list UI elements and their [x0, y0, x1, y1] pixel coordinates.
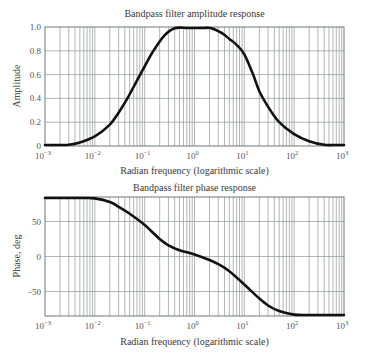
chart-title: Bandpass filter phase response [133, 182, 257, 193]
y-tick-label: −50 [27, 287, 42, 297]
x-tick-label: 10−2 [85, 149, 101, 161]
amplitude-response-chart: Bandpass filter amplitude response 00.20… [11, 8, 348, 177]
y-tick-labels: −50050 [27, 217, 42, 297]
gridlines [45, 197, 344, 316]
phase-response-chart: Bandpass filter phase response −50050 10… [11, 182, 348, 348]
x-tick-label: 10−3 [35, 319, 51, 331]
x-tick-labels: 10−310−210−1100101102103 [35, 149, 348, 161]
y-tick-label: 0.4 [30, 93, 42, 103]
x-tick-label: 100 [186, 319, 198, 331]
x-axis-label: Radian frequency (logarithmic scale) [120, 336, 269, 348]
x-tick-label: 101 [236, 149, 248, 161]
y-axis-label: Amplitude [11, 64, 22, 107]
x-tick-label: 100 [186, 149, 198, 161]
x-tick-label: 103 [336, 149, 348, 161]
y-tick-label: 0.8 [30, 46, 42, 56]
gridlines [45, 27, 344, 146]
y-tick-label: 50 [32, 217, 42, 227]
y-tick-labels: 00.20.40.60.81.0 [30, 22, 42, 151]
y-axis-label: Phase, deg [11, 235, 22, 278]
bandpass-filter-bode-plots: Bandpass filter amplitude response 00.20… [0, 0, 365, 358]
x-tick-labels: 10−310−210−1100101102103 [35, 319, 348, 331]
y-tick-label: 0.2 [30, 117, 41, 127]
figure: Bandpass filter amplitude response 00.20… [0, 0, 365, 358]
y-tick-label: 0 [37, 141, 42, 151]
x-axis-label: Radian frequency (logarithmic scale) [120, 165, 269, 177]
x-tick-label: 10−1 [135, 149, 151, 161]
x-tick-label: 101 [236, 319, 248, 331]
chart-title: Bandpass filter amplitude response [124, 8, 265, 19]
x-tick-label: 102 [286, 319, 298, 331]
y-tick-label: 0 [37, 252, 42, 262]
x-tick-label: 10−1 [135, 319, 151, 331]
y-tick-label: 0.6 [30, 70, 42, 80]
x-tick-label: 10−3 [35, 149, 51, 161]
x-tick-label: 103 [336, 319, 348, 331]
x-tick-label: 10−2 [85, 319, 101, 331]
y-tick-label: 1.0 [30, 22, 42, 32]
x-tick-label: 102 [286, 149, 298, 161]
